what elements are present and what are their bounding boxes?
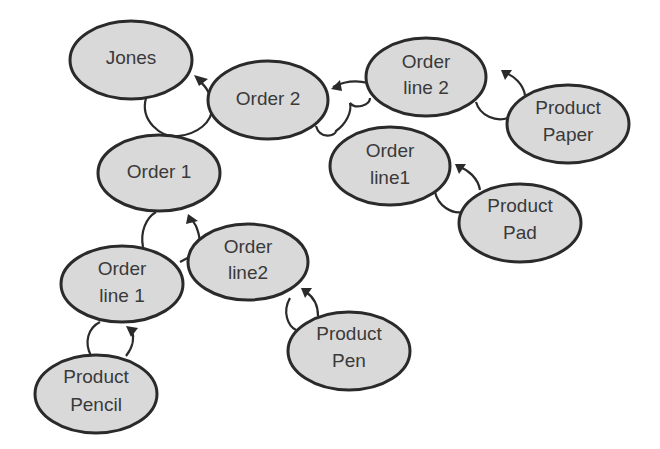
node-label-line1: Order xyxy=(224,236,273,257)
connector-pad-arrow-curve xyxy=(460,167,480,190)
node-label-line1: Product xyxy=(535,97,601,118)
arrowhead-to-orderline1-left xyxy=(126,326,138,337)
connector-pen-to-orderline2 xyxy=(286,298,296,330)
node-label-line2: Paper xyxy=(543,124,594,145)
node-product-paper: Product Paper xyxy=(507,85,629,163)
node-label-line2: Pad xyxy=(503,222,537,243)
connector-pad-to-orderline1 xyxy=(435,192,462,212)
node-label-line1: Product xyxy=(63,366,129,387)
connector-orderline1-to-order1 xyxy=(142,212,156,247)
node-label-line2: Pencil xyxy=(70,394,122,415)
node-label-line1: Product xyxy=(487,195,553,216)
connector-pencil-to-orderline1 xyxy=(88,322,100,356)
node-jones: Jones xyxy=(70,21,192,99)
node-label-line1: Order xyxy=(402,51,451,72)
connector-paper-arrow-curve xyxy=(506,73,525,95)
object-reference-diagram: Jones Order 2 Order 1 Order line 2 Produ… xyxy=(0,0,660,449)
node-order2-line-2: Order line 2 xyxy=(366,38,486,116)
node-order2-line-1: Order line1 xyxy=(330,127,450,205)
node-label-line1: Product xyxy=(316,323,382,344)
connector-paper-to-orderline2 xyxy=(476,102,508,119)
node-product-pencil: Product Pencil xyxy=(35,355,157,433)
arrowhead-to-order1 xyxy=(186,214,198,224)
node-label: Jones xyxy=(106,47,157,68)
node-order1-line-2: Order line2 xyxy=(188,224,308,300)
node-label-line2: line 1 xyxy=(99,285,144,306)
node-product-pen: Product Pen xyxy=(288,312,410,390)
node-label-line2: line1 xyxy=(370,167,410,188)
node-order1-line-1: Order line 1 xyxy=(61,246,183,322)
node-label-line2: Pen xyxy=(332,350,366,371)
node-label: Order 1 xyxy=(127,161,191,182)
node-order-2: Order 2 xyxy=(208,61,328,139)
node-product-pad: Product Pad xyxy=(459,184,581,262)
arrowhead-to-order2 xyxy=(331,80,342,91)
connector-pen-arrow-curve xyxy=(306,292,318,316)
node-order-1: Order 1 xyxy=(98,135,220,211)
node-label-line1: Order xyxy=(98,258,147,279)
node-ellipse xyxy=(330,127,450,205)
arrowhead-to-jones xyxy=(194,75,208,86)
node-label: Order 2 xyxy=(236,88,300,109)
node-label-line1: Order xyxy=(366,140,415,161)
node-label-line2: line2 xyxy=(228,262,268,283)
node-label-line2: line 2 xyxy=(403,77,448,98)
